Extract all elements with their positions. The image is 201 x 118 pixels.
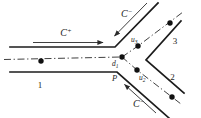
point-p-label: P [111,73,117,83]
state-point-duct3-outer [167,20,172,25]
c-minus-bottom-superscript: − [140,98,145,106]
state-point-duct1 [38,58,43,63]
duct-junction-figure: C+ C− C− u3 u2 d1 P 1 2 3 [0,0,201,118]
u2-subscript: 2 [143,77,146,83]
duct-junction-diagram: C+ C− C− u3 u2 d1 P 1 2 3 [0,0,201,118]
c-minus-bottom-label: C− [133,98,145,110]
c-plus-superscript: + [67,27,72,35]
duct2-number-label: 2 [170,72,175,82]
state-point-u2 [134,67,139,72]
u2-label: u2 [139,73,146,83]
u3-label: u3 [131,35,138,45]
duct3-number-label: 3 [173,36,178,46]
state-point-duct2-outer [169,94,174,99]
u3-subscript: 3 [134,39,138,45]
c-minus-top-superscript: − [128,8,133,16]
duct1-number-label: 1 [38,80,43,90]
duct1-centerline [4,57,121,60]
d1-label: d1 [112,59,119,69]
c-minus-top-label: C− [121,8,133,20]
junction-point-d1 [119,54,124,59]
branch-divider-wedge-wall [146,21,184,93]
c-plus-label: C+ [60,27,72,39]
d1-subscript: 1 [116,63,119,69]
